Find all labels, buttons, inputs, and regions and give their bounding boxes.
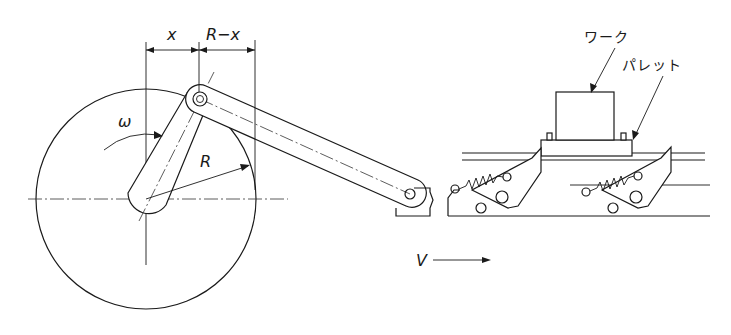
work-piece — [556, 92, 614, 140]
angular-velocity-indicator: ω — [104, 112, 163, 150]
connecting-rod — [186, 85, 427, 208]
dimension-r-minus-x-label: R−x — [206, 25, 241, 44]
omega-label: ω — [118, 112, 131, 131]
pawl-left — [451, 148, 541, 213]
radius-label: R — [200, 152, 211, 171]
velocity-label: V — [416, 251, 428, 270]
work-label: ワーク — [584, 29, 629, 45]
pallet-label: パレット — [622, 57, 682, 73]
pawl-right — [582, 147, 671, 213]
crank-pallet-conveyor-diagram: R ω x R−x — [0, 0, 731, 335]
dimension-x-label: x — [166, 25, 177, 44]
velocity-indicator: V — [416, 251, 491, 270]
